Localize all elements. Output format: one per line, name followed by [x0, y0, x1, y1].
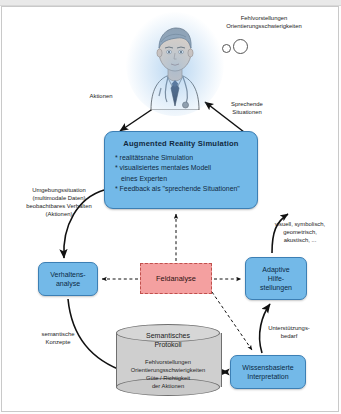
label-semantic-concepts: semantische Konzepte — [30, 330, 86, 346]
adaptive-hilfestellungen-label: Adaptive Hilfe- stellungen — [260, 265, 292, 293]
protokoll-content-line3: Güte / Richtigkeit — [116, 374, 220, 382]
label-environment-line1: Umgebungssituation — [6, 186, 112, 194]
node-augmented-reality-simulation[interactable]: Augmented Reality Simulation * realitäts… — [104, 131, 258, 209]
node-wissensbasierte-interpretation[interactable]: Wissensbasierte Interpretation — [230, 355, 306, 389]
thought-bubble-icon-large — [233, 39, 248, 54]
label-environment-situation: Umgebungssituation (multimodale Daten) b… — [6, 186, 112, 218]
label-speaking-situations-line1: Sprechende — [218, 100, 276, 108]
label-speaking-situations-line2: Situationen — [218, 108, 276, 116]
ar-bullet-2-cont: eines Experten — [115, 174, 257, 184]
ar-bullet-3: * Feedback als "sprechende Situationen" — [115, 184, 257, 194]
label-speaking-situations: Sprechende Situationen — [218, 100, 276, 116]
ar-bullet-1: * realitätsnahe Simulation — [115, 153, 257, 163]
ar-bullet-2: * visualisiertes mentales Modell — [115, 163, 257, 173]
label-misconceptions: Fehlvorstellungen Orientierungsschwierig… — [198, 14, 330, 30]
node-semantisches-protokoll[interactable]: Semantisches Protokoll Fehlvorstellungen… — [116, 324, 220, 396]
protokoll-title-line2: Protokoll — [116, 340, 220, 349]
node-feldanalyse[interactable]: Feldanalyse — [140, 263, 212, 294]
verhaltensanalyse-label: Verhaltens- analyse — [50, 270, 85, 288]
feldanalyse-label: Feldanalyse — [156, 274, 196, 283]
wissensbasierte-label: Wissensbasierte Interpretation — [242, 363, 293, 381]
label-support-need-line1: Unterstützungs- — [258, 324, 320, 332]
ar-simulation-bullets: * realitätsnahe Simulation * visualisier… — [105, 148, 257, 195]
label-actions: Aktionen — [78, 92, 124, 100]
ar-simulation-heading: Augmented Reality Simulation — [105, 132, 257, 148]
label-environment-line4: (Aktionen) — [6, 210, 112, 218]
protokoll-content-line4: der Aktionen — [116, 382, 220, 390]
label-modalities: visuell, symbolisch, geometrisch, akusti… — [262, 220, 338, 244]
verhaltensanalyse-line2: analyse — [50, 279, 85, 288]
label-misconceptions-line2: Orientierungsschwierigkeiten — [198, 22, 330, 30]
adaptive-line3: stellungen — [260, 283, 292, 292]
thought-bubble-icon-small — [222, 44, 231, 53]
label-support-need: Unterstützungs- bedarf — [258, 324, 320, 340]
label-modalities-line2: geometrisch, — [262, 228, 338, 236]
adaptive-line1: Adaptive — [260, 265, 292, 274]
label-modalities-line1: visuell, symbolisch, — [262, 220, 338, 228]
node-adaptive-hilfestellungen[interactable]: Adaptive Hilfe- stellungen — [245, 257, 307, 300]
wissensbasierte-line1: Wissensbasierte — [242, 363, 293, 372]
doctor-avatar-icon — [138, 18, 212, 110]
verhaltensanalyse-line1: Verhaltens- — [50, 270, 85, 279]
protokoll-title: Semantisches Protokoll — [116, 331, 220, 350]
label-misconceptions-line1: Fehlvorstellungen — [198, 14, 330, 22]
label-support-need-line2: bedarf — [258, 332, 320, 340]
label-environment-line3: beobachtbares Verhalten — [6, 202, 112, 210]
label-environment-line2: (multimodale Daten) — [6, 194, 112, 202]
protokoll-content-line1: Fehlvorstellungen — [116, 358, 220, 366]
diagram-canvas: Fehlvorstellungen Orientierungsschwierig… — [0, 0, 341, 414]
label-modalities-line3: akustisch, ... — [262, 236, 338, 244]
node-verhaltensanalyse[interactable]: Verhaltens- analyse — [38, 262, 98, 296]
label-semantic-concepts-line1: semantische — [30, 330, 86, 338]
adaptive-line2: Hilfe- — [260, 274, 292, 283]
protokoll-title-line1: Semantisches — [116, 331, 220, 340]
protokoll-content-line2: Orientierungsschwierigkeiten — [116, 366, 220, 374]
label-semantic-concepts-line2: Konzepte — [30, 338, 86, 346]
protokoll-content: Fehlvorstellungen Orientierungsschwierig… — [116, 358, 220, 390]
wissensbasierte-line2: Interpretation — [242, 372, 293, 381]
label-actions-text: Aktionen — [78, 92, 124, 100]
